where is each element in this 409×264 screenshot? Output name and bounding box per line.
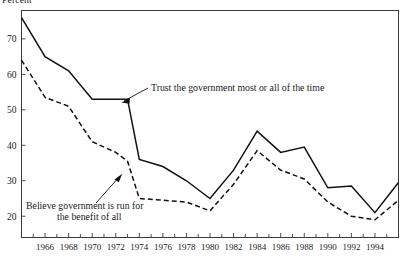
y-tick-label: 30 <box>7 176 17 186</box>
x-tick-label: 1988 <box>295 242 314 252</box>
x-tick-label: 1982 <box>225 242 243 252</box>
x-tick-label: 1992 <box>342 242 360 252</box>
x-tick-label: 1970 <box>83 242 102 252</box>
chart-container: Percent 203040506070 1966196819701972197… <box>0 0 409 264</box>
chart-background <box>0 0 409 264</box>
y-tick-label: 60 <box>7 70 17 80</box>
y-tick-label: 70 <box>7 34 17 44</box>
annotation-solid-label: Trust the government most or all of the … <box>151 82 325 93</box>
y-axis-title: Percent <box>2 0 32 5</box>
x-tick-label: 1968 <box>60 242 79 252</box>
x-tick-label: 1984 <box>248 242 267 252</box>
y-tick-label: 40 <box>7 141 17 151</box>
x-tick-label: 1990 <box>319 242 338 252</box>
line-chart: 203040506070 196619681970197219741976197… <box>0 0 409 264</box>
x-tick-label: 1974 <box>130 242 149 252</box>
x-tick-label: 1978 <box>177 242 196 252</box>
x-tick-label: 1966 <box>36 242 55 252</box>
x-tick-label: 1980 <box>201 242 220 252</box>
x-tick-label: 1994 <box>366 242 385 252</box>
x-tick-label: 1986 <box>272 242 291 252</box>
y-tick-label: 50 <box>7 105 17 115</box>
annotation-dashed-label-line2: the benefit of all <box>57 211 122 222</box>
x-tick-label: 1972 <box>107 242 125 252</box>
x-tick-label: 1976 <box>154 242 173 252</box>
annotation-dashed-label-line1: Believe government is run for <box>26 200 144 211</box>
y-tick-label: 20 <box>7 212 17 222</box>
